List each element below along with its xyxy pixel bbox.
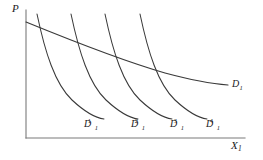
figure-canvas — [0, 0, 263, 160]
x-axis-label: X1 — [231, 140, 241, 151]
curve-label-3-superscript: 3 — [174, 117, 177, 124]
curve-label-aggregate: D1 — [232, 79, 242, 89]
curve-label-individual-3: D31 — [170, 119, 184, 129]
curve-individual-1 — [37, 14, 104, 119]
y-axis-label-text: P — [12, 2, 19, 14]
curve-individual-3 — [105, 14, 172, 119]
curve-label-aggregate-subscript: 1 — [239, 84, 242, 91]
curve-label-4-subscript: 1 — [217, 124, 220, 131]
curve-individual-2 — [71, 14, 138, 119]
curve-label-1-subscript: 1 — [95, 124, 98, 131]
y-axis-label: P — [12, 3, 19, 14]
curve-label-3-subscript: 1 — [181, 124, 184, 131]
demand-curve-figure: P X1 D1 D11 D21 D31 D41 — [0, 0, 263, 160]
curve-label-individual-2: D21 — [131, 119, 145, 129]
curve-label-2-superscript: 2 — [135, 117, 138, 124]
curve-label-1-superscript: 1 — [88, 117, 91, 124]
curve-aggregate-d1 — [26, 22, 228, 85]
curve-label-individual-1: D11 — [84, 119, 98, 129]
x-axis-label-subscript: 1 — [238, 144, 242, 153]
x-axis-label-base: X — [231, 139, 238, 151]
curve-label-individual-4: D41 — [206, 119, 220, 129]
curve-individual-4 — [140, 14, 207, 119]
curve-label-4-superscript: 4 — [210, 117, 213, 124]
curve-label-2-subscript: 1 — [142, 124, 145, 131]
